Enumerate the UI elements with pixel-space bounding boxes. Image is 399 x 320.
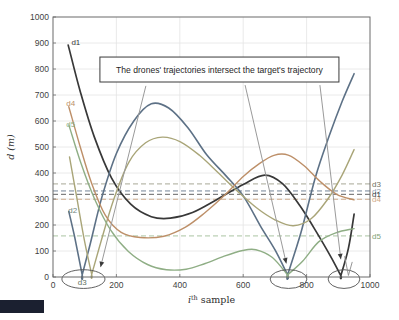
curve-label-d5: d5 (66, 120, 75, 129)
drone-distance-chart: The drones' trajectories intersect the t… (0, 0, 399, 320)
y-axis-label: d (m) (5, 134, 16, 160)
figure: The drones' trajectories intersect the t… (0, 0, 399, 320)
y-tick-label: 300 (35, 194, 49, 204)
curve-label-d1: d1 (71, 38, 80, 47)
annotation-text: The drones' trajectories intersect the t… (116, 65, 323, 75)
corner-artifact (0, 300, 44, 313)
curve-label-d4: d4 (66, 99, 75, 108)
x-tick-label: 800 (300, 280, 314, 290)
x-tick-label: 600 (236, 280, 250, 290)
threshold-label-d5: d5 (372, 232, 381, 241)
x-tick-label: 0 (51, 280, 56, 290)
curve-label-d2: d2 (68, 206, 77, 215)
y-tick-label: 400 (35, 168, 49, 178)
y-tick-label: 200 (35, 220, 49, 230)
y-tick-label: 800 (35, 64, 49, 74)
threshold-label-d4: d4 (372, 195, 381, 204)
y-tick-label: 0 (44, 272, 49, 282)
y-tick-label: 700 (35, 90, 49, 100)
y-tick-label: 100 (35, 246, 49, 256)
curve-label-d3: d3 (78, 278, 87, 287)
y-tick-label: 600 (35, 116, 49, 126)
y-tick-label: 500 (35, 142, 49, 152)
y-tick-label: 900 (35, 38, 49, 48)
x-tick-label: 200 (109, 280, 123, 290)
x-tick-label: 1000 (361, 280, 380, 290)
y-tick-label: 1000 (30, 12, 49, 22)
x-tick-label: 400 (173, 280, 187, 290)
